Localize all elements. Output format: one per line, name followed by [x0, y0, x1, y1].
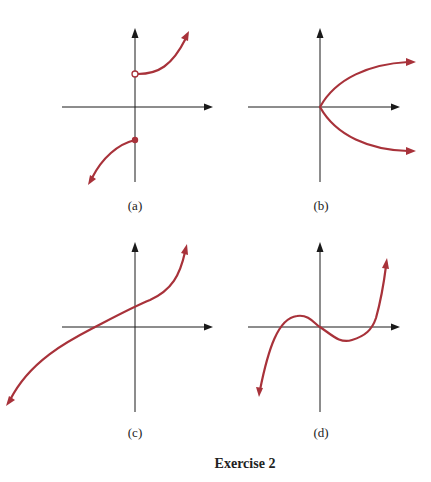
increasing-curve: [10, 252, 185, 400]
curve-arrow-icon: [181, 31, 189, 41]
y-axis-arrow-icon: [132, 28, 139, 38]
panel-a-label: (a): [128, 198, 142, 214]
panel-c-label: (c): [128, 425, 142, 441]
closed-dot-icon: [132, 137, 138, 143]
x-axis-arrow-icon: [204, 104, 213, 111]
x-axis-arrow-icon: [204, 324, 213, 331]
y-axis-arrow-icon: [132, 242, 139, 252]
lower-branch-curve: [92, 140, 135, 178]
curve-arrow-icon: [382, 258, 389, 269]
curve-arrow-icon: [256, 387, 263, 397]
curve-arrow-icon: [88, 175, 96, 185]
panel-a-graph: [62, 28, 213, 185]
y-axis-arrow-icon: [317, 242, 324, 252]
curve-arrow-icon: [6, 396, 15, 406]
panel-d-graph: [248, 242, 400, 412]
open-circle-icon: [132, 71, 138, 77]
panel-b-graph: [248, 28, 416, 182]
curve-arrow-icon: [406, 147, 416, 155]
upper-branch-curve: [138, 38, 186, 74]
panel-b-label: (b): [313, 198, 328, 214]
x-axis-arrow-icon: [391, 324, 400, 331]
panel-d-label: (d): [313, 425, 328, 441]
figure-caption: Exercise 2: [215, 456, 276, 472]
x-axis-arrow-icon: [391, 104, 400, 111]
panel-c-graph: [6, 242, 213, 412]
cubic-curve: [260, 266, 386, 390]
exercise-figure: [0, 0, 431, 482]
y-axis-arrow-icon: [317, 28, 324, 38]
curve-arrow-icon: [406, 58, 416, 66]
curve-arrow-icon: [181, 244, 188, 255]
